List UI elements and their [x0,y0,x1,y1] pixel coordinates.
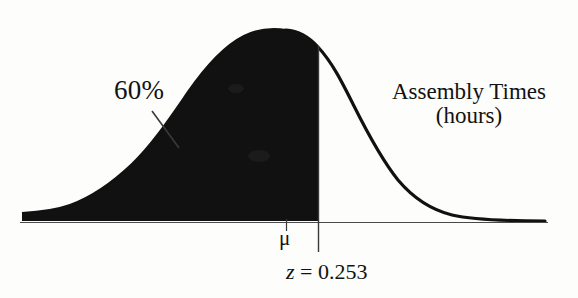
z-value-label: z = 0.253 [286,261,367,284]
series-label-line2: (hours) [384,104,554,128]
shaded-area-60-percent [22,29,318,221]
distribution-curve-svg [0,0,578,298]
mean-axis-label: μ [279,228,290,250]
z-value-text: = 0.253 [295,259,368,284]
z-variable-symbol: z [286,259,295,284]
shaded-area-percent-label: 60% [114,76,164,104]
series-label: Assembly Times (hours) [384,80,554,128]
normal-distribution-figure: 60% Assembly Times (hours) μ z = 0.253 [0,0,578,298]
series-label-line1: Assembly Times [392,79,546,104]
